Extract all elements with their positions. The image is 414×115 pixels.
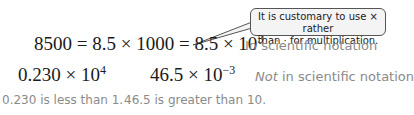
exponent: 4 xyxy=(100,63,106,77)
label-rest: in scientific notation xyxy=(278,69,414,84)
exponent: −3 xyxy=(222,63,235,77)
reason-greater-than-ten: 46.5 is greater than 10. xyxy=(124,93,266,107)
callout-box: It is customary to use × rather than · f… xyxy=(250,8,386,36)
expression-text: 0.230 × 10 xyxy=(18,64,100,85)
expression-text: 46.5 × 10 xyxy=(150,64,222,85)
reason-less-than-one: 0.230 is less than 1. xyxy=(2,93,123,107)
in-scientific-notation-label: In scientific notation xyxy=(245,38,377,53)
scientific-notation-example: 8500 = 8.5 × 1000 = 8.5 × 103 xyxy=(34,33,263,55)
callout-line-1: It is customary to use × rather xyxy=(251,11,385,35)
not-in-scientific-notation-label: Not in scientific notation xyxy=(255,69,414,84)
non-scientific-example-1: 0.230 × 104 xyxy=(18,64,106,86)
non-scientific-example-2: 46.5 × 10−3 xyxy=(150,64,235,86)
not-emphasis: Not xyxy=(255,69,278,84)
expression-text: 8500 = 8.5 × 1000 = 8.5 × 10 xyxy=(34,33,257,54)
